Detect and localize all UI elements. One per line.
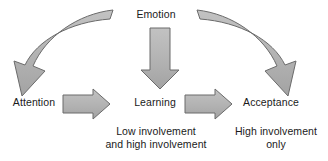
node-label-attention: Attention [8,96,60,109]
note-low-involvement: Low involvement and high involvement [97,125,215,150]
arrow-emotion-to-acceptance [197,10,296,96]
arrow-attention-to-learning [63,89,110,119]
node-label-emotion: Emotion [133,8,179,21]
arrow-learning-to-acceptance [185,89,232,119]
node-label-learning: Learning [132,96,178,109]
arrow-emotion-to-attention [14,10,113,96]
diagram-canvas: Emotion Attention Learning Acceptance Lo… [0,0,328,161]
arrow-emotion-to-learning [141,28,179,89]
node-label-acceptance: Acceptance [240,96,302,109]
note-high-involvement: High involvement only [232,125,320,150]
